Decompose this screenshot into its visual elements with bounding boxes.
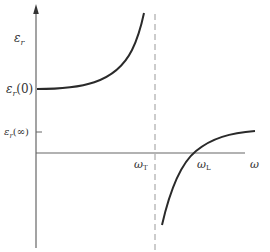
dielectric-diagram: εr εr(0) εr(∞) ωT ωL ω <box>0 0 270 252</box>
omega-l-label: ωL <box>197 158 211 172</box>
x-axis-label: ω <box>250 158 259 171</box>
omega-t-label: ωT <box>134 158 148 172</box>
eps-inf-label: εr(∞) <box>4 126 29 140</box>
curve-below-omega-t <box>37 13 144 89</box>
y-axis-arrow-icon <box>33 4 39 14</box>
curve-above-omega-t <box>162 131 255 225</box>
y-axis-label: εr <box>14 31 25 47</box>
eps-zero-label: εr(0) <box>6 82 33 98</box>
